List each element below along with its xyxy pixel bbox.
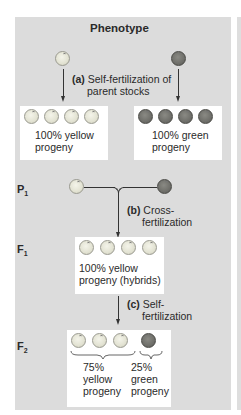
yellow-progeny-line2: progeny xyxy=(35,141,73,153)
green-progeny-pea xyxy=(138,109,153,124)
yellow-progeny-pea xyxy=(84,109,99,124)
f2-green-pea xyxy=(141,333,156,348)
yellow-progeny-pea xyxy=(44,109,59,124)
f1-sub: 1 xyxy=(24,250,28,257)
f1-pea xyxy=(142,240,157,255)
yellow-progeny-pea xyxy=(64,109,79,124)
yellow-progeny-text: 100% yellow progeny xyxy=(35,129,94,153)
f1-line2: progeny (hybrids) xyxy=(79,274,161,286)
phenotype-title: Phenotype xyxy=(90,22,149,34)
step-b-label: (b) xyxy=(127,204,140,216)
arrow-c-head xyxy=(116,319,120,325)
p1-sub: 1 xyxy=(24,190,28,197)
arrow-a-left-head xyxy=(61,96,65,102)
step-a-label: (a) xyxy=(72,73,85,85)
f1-pea xyxy=(79,240,94,255)
generation-label-p1: P1 xyxy=(17,183,28,197)
f2-yellow-line2: yellow xyxy=(83,373,112,385)
f2-green-line3: progeny xyxy=(131,385,169,397)
step-a-line1: Self-fertilization of xyxy=(88,73,171,85)
f1-progeny-text: 100% yellow progeny (hybrids) xyxy=(79,262,161,286)
step-a-line2: parent stocks xyxy=(72,85,149,97)
f2-yellow-line3: progeny xyxy=(83,385,121,397)
yellow-progeny-line1: 100% yellow xyxy=(35,129,94,141)
arrow-a-right-line xyxy=(178,69,179,97)
step-a-text: (a) Self-fertilization of parent stocks xyxy=(72,73,171,97)
f2-letter: F xyxy=(17,340,24,352)
generation-label-f1: F1 xyxy=(17,243,28,257)
step-c-text: (c) Self- fertilization xyxy=(127,298,192,322)
green-progeny-text: 100% green progeny xyxy=(152,129,209,153)
step-b-text: (b) Cross- fertilization xyxy=(127,204,192,228)
f2-yellow-pct: 75% xyxy=(83,361,104,373)
f2-yellow-pea xyxy=(113,333,128,348)
step-c-label: (c) xyxy=(127,298,140,310)
parent-yellow-pea xyxy=(55,51,70,66)
green-progeny-line2: progeny xyxy=(152,141,190,153)
step-b-line2: fertilization xyxy=(127,216,192,228)
f1-pea xyxy=(121,240,136,255)
f2-green-text: 25% green progeny xyxy=(131,361,169,397)
arrow-b-line xyxy=(118,192,119,234)
f2-yellow-pea xyxy=(71,333,86,348)
f2-green-line2: green xyxy=(131,373,158,385)
cross-line-left xyxy=(84,187,115,188)
green-progeny-pea xyxy=(198,109,213,124)
page-edge xyxy=(237,17,241,410)
arrow-a-left-line xyxy=(63,69,64,97)
f1-line1: 100% yellow xyxy=(79,262,138,274)
f2-yellow-text: 75% yellow progeny xyxy=(83,361,121,397)
f1-pea xyxy=(100,240,115,255)
cross-curve-right xyxy=(118,187,125,194)
generation-label-f2: F2 xyxy=(17,340,28,354)
f2-yellow-pea xyxy=(92,333,107,348)
green-progeny-pea xyxy=(158,109,173,124)
step-c-line2: fertilization xyxy=(127,310,192,322)
step-b-line1: Cross- xyxy=(143,204,174,216)
cross-line-right xyxy=(123,187,157,188)
step-c-line1: Self- xyxy=(143,298,165,310)
f2-sub: 2 xyxy=(24,347,28,354)
parent-green-pea xyxy=(171,51,186,66)
p1-green-pea xyxy=(157,179,172,194)
f2-green-pct: 25% xyxy=(131,361,152,373)
green-progeny-line1: 100% green xyxy=(152,129,209,141)
yellow-progeny-pea xyxy=(24,109,39,124)
arrow-c-line xyxy=(118,296,119,321)
p1-yellow-pea xyxy=(69,179,84,194)
green-progeny-pea xyxy=(178,109,193,124)
arrow-a-right-head xyxy=(176,96,180,102)
f1-letter: F xyxy=(17,243,24,255)
